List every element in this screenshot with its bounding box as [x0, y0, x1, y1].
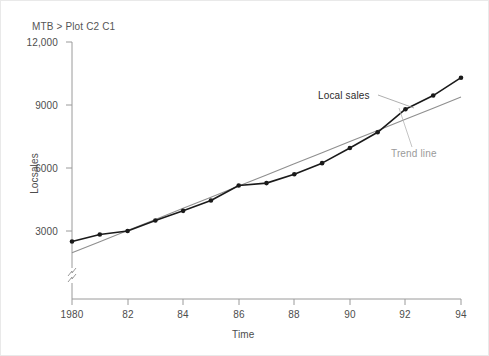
data-point	[209, 198, 214, 203]
data-point	[320, 161, 325, 166]
plot-canvas	[0, 0, 489, 356]
axis-lines	[72, 42, 461, 299]
data-point	[375, 130, 380, 135]
local-sales-markers	[70, 75, 464, 243]
x-tick-marks	[72, 299, 461, 305]
data-point	[292, 172, 297, 177]
chart-figure: MTB > Plot C2 C1 12,000 9000 6000 3000 L…	[0, 0, 489, 356]
data-point	[459, 75, 464, 80]
data-point	[236, 183, 241, 188]
data-point	[403, 107, 408, 112]
local-sales-series	[72, 78, 461, 242]
data-point	[153, 218, 158, 223]
leader-line-local-sales	[378, 95, 414, 108]
data-point	[348, 146, 353, 151]
data-point	[125, 229, 130, 234]
leader-line-trend-line	[399, 108, 412, 147]
y-tick-marks	[66, 42, 72, 231]
data-point	[70, 239, 75, 244]
data-point	[181, 209, 186, 214]
data-point	[264, 181, 269, 186]
data-point	[431, 93, 436, 98]
annotation-leaders	[378, 95, 414, 147]
data-point	[97, 232, 102, 237]
y-axis-break-icon	[68, 268, 77, 283]
